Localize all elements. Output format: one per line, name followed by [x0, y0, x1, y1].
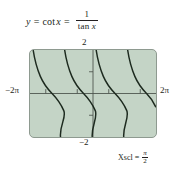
- xscl-denominator: 2: [142, 158, 148, 165]
- x-min-label: −2π: [5, 85, 19, 95]
- fraction-denominator-arg: x: [92, 21, 96, 31]
- xscl-numerator: π: [142, 150, 148, 157]
- title-function-name: cot: [42, 16, 55, 27]
- xscl-name: Xscl: [118, 153, 133, 162]
- x-max-label: 2π: [160, 85, 169, 95]
- xscl-equals: =: [135, 153, 140, 162]
- y-max-label: 2: [82, 37, 87, 47]
- cot-branch-4: [128, 50, 156, 107]
- title-function-arg: x: [56, 16, 61, 27]
- title-equals-1: =: [34, 16, 40, 27]
- xscl-fraction: π 2: [142, 150, 148, 165]
- plot-panel: [29, 49, 157, 138]
- fraction-numerator: 1: [83, 10, 92, 20]
- title-equals-2: =: [64, 16, 70, 27]
- fraction-denominator: tan x: [76, 21, 98, 31]
- figure-title-equation: y = cot x = 1 tan x: [26, 11, 98, 32]
- title-fraction: 1 tan x: [76, 10, 98, 31]
- title-lhs: y: [26, 16, 31, 27]
- cotangent-graph-figure: y = cot x = 1 tan x: [0, 0, 178, 173]
- y-min-label: −2: [79, 137, 89, 147]
- fraction-denominator-fn: tan: [78, 21, 90, 31]
- xscl-note: Xscl = π 2: [118, 150, 148, 165]
- plot-svg: [30, 50, 156, 137]
